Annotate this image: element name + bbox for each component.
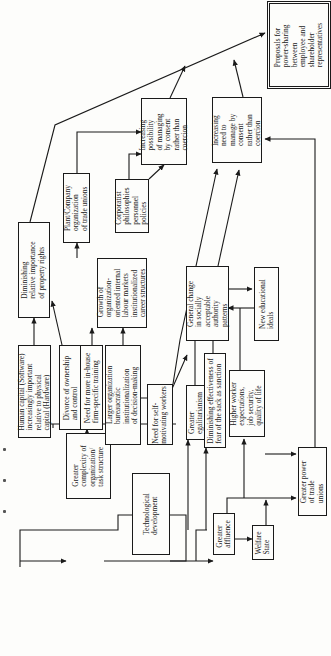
- node-label: Human capital (Software) increasingly im…: [18, 353, 52, 430]
- node-label: Increasing possibility of managing by co…: [139, 113, 189, 150]
- node-corporatist: Corporatist philosophies personnel polic…: [115, 179, 149, 233]
- node-label: Larger organization bureaucratic institu…: [106, 366, 140, 424]
- edge-corporatist-possibility-2: [149, 165, 164, 179]
- edge-authority-needconsent: [218, 170, 239, 266]
- node-plant-company: Plant/Company organization of trade unio…: [63, 173, 90, 243]
- edge-affluence-unionpower: [227, 498, 296, 513]
- figure-caption-fragment: [1, 420, 7, 656]
- node-tech: Technological development: [132, 473, 170, 555]
- node-label: Technological development: [143, 493, 160, 535]
- node-internal-markets: Growth of organization- oriented interna…: [97, 258, 147, 328]
- node-label: Greater power of trade unions: [300, 460, 325, 502]
- node-label: Divorce of ownership and control: [63, 355, 80, 419]
- node-education: New educational ideals: [254, 267, 279, 341]
- node-expectations: Higher worker expectations, job security…: [229, 370, 265, 437]
- node-label: Growth of organization- oriented interna…: [97, 269, 147, 318]
- edge-needconsent-proposals: [234, 60, 243, 97]
- edge-affluence-link: [196, 530, 207, 561]
- node-authority: General change in socially acceptable au…: [186, 266, 229, 341]
- node-label: Need for self- motivating workers: [152, 386, 169, 444]
- node-property: Diminishing relative importance of prope…: [18, 222, 50, 318]
- node-human-capital: Human capital (Software) increasingly im…: [18, 345, 51, 438]
- node-sack: Diminishing effectiveness of fear of the…: [204, 353, 226, 448]
- node-label: Greater affluence: [216, 520, 233, 547]
- node-inhouse: Need for more in-house firm-specific tra…: [80, 345, 103, 430]
- node-need-consent: Increasing need to manage by consent rat…: [212, 97, 262, 163]
- node-welfare: Welfare State: [252, 525, 274, 560]
- node-proposals: Proposals for power-sharing between empl…: [267, 1, 331, 89]
- node-label: General change in socially acceptable au…: [186, 280, 228, 326]
- node-larger-org: Larger organization bureaucratic institu…: [105, 345, 141, 445]
- flow-diagram: Technological developmentGreater complex…: [0, 0, 331, 656]
- node-label: Greater complexity of organization/ task…: [72, 445, 106, 486]
- node-label: New educational ideals: [258, 279, 275, 329]
- node-label: Increasing need to manage by consent rat…: [212, 114, 262, 146]
- node-label: Diminishing effectiveness of fear of the…: [207, 358, 224, 443]
- node-label: Welfare State: [255, 531, 272, 554]
- edge-corporatist-possibility: [129, 154, 141, 179]
- edge-plant-possibility: [77, 132, 141, 173]
- edge-divorce-property: [52, 301, 62, 345]
- node-affluence: Greater affluence: [213, 513, 235, 555]
- node-label: Greater egalitarianism: [187, 392, 204, 434]
- node-label: Higher worker expectations, job security…: [230, 382, 264, 425]
- node-self-motivating: Need for self- motivating workers: [147, 384, 173, 445]
- node-label: Plant/Company organization of trade unio…: [64, 185, 89, 231]
- node-label: Diminishing relative importance of prope…: [21, 241, 46, 298]
- node-possibility: Increasing possibility of managing by co…: [141, 98, 187, 165]
- node-egalitarianism: Greater egalitarianism: [186, 385, 205, 440]
- edge-tech-bus-left: [20, 515, 132, 567]
- node-union-power: Greater power of trade unions: [298, 447, 327, 516]
- node-label: Corporatist philosophies personnel polic…: [115, 187, 149, 224]
- node-label: Need for more in-house firm-specific tra…: [83, 352, 100, 422]
- node-label: Proposals for power-sharing between empl…: [274, 23, 324, 67]
